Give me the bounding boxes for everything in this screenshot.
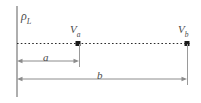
- label-distance-b: b: [97, 70, 103, 81]
- label-vb-subscript: b: [185, 30, 189, 39]
- label-va-subscript: a: [77, 30, 81, 39]
- label-rho-symbol: ρ: [21, 9, 27, 23]
- label-distance-a: a: [43, 52, 49, 63]
- label-va-symbol: V: [70, 23, 77, 35]
- arrowhead-b-left: [17, 77, 23, 82]
- physics-line-charge-diagram: ρL Va Vb a b: [0, 0, 201, 103]
- label-potential-b: Vb: [178, 24, 188, 38]
- label-potential-a: Va: [70, 24, 80, 38]
- label-line-charge-density: ρL: [21, 10, 31, 26]
- label-rho-subscript: L: [27, 17, 32, 26]
- arrowhead-a-left: [17, 59, 23, 64]
- arrowhead-a-right: [74, 59, 80, 64]
- arrowhead-b-right: [182, 77, 188, 82]
- label-vb-symbol: V: [178, 23, 185, 35]
